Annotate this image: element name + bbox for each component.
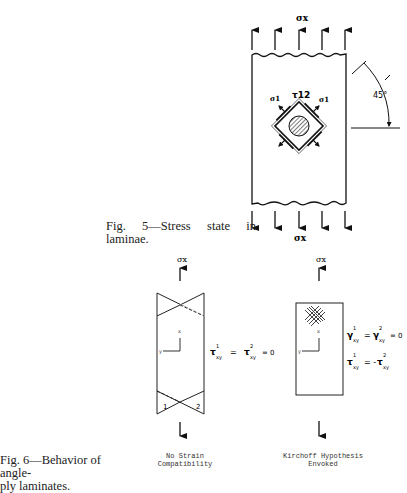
fig6-caption-line2: ply laminates.	[0, 480, 135, 493]
fig5-top-arrows	[252, 30, 345, 50]
svg-text:1: 1	[216, 343, 219, 349]
svg-text:xy: xy	[216, 354, 222, 361]
svg-text:xy: xy	[379, 337, 385, 344]
fig6-right-panel: σx x y γ 1 xy = γ 2 xy = 0	[296, 255, 403, 436]
fig6-left-axes	[163, 338, 180, 351]
svg-text:xy: xy	[353, 337, 359, 344]
fig5-sigma-bottom-label: σx	[294, 233, 307, 243]
fig6-left-label: No Strain Compatibility	[150, 452, 220, 468]
fig5-sigma-top-label: σx	[296, 13, 309, 23]
fig6-right-label-line1: Kirchoff Hypothesis	[278, 452, 368, 460]
fig6-left-label-line2: Compatibility	[150, 460, 220, 468]
fig5-bottom-arrows	[252, 211, 345, 228]
svg-text:x: x	[317, 328, 320, 334]
fig5-angle-label: 45°	[373, 91, 387, 100]
fig5-sigma1-right-label: σ1	[319, 95, 329, 104]
fig6-right-axes	[302, 338, 319, 351]
svg-text:xy: xy	[383, 364, 389, 371]
fig6-left-panel: σx x y 1 2 τ 1 xy = τ 2	[157, 255, 275, 436]
svg-text:xy: xy	[250, 354, 256, 361]
fig6-right-equation-tau: τ 1 xy = - τ 2 xy	[347, 352, 389, 371]
svg-text:2: 2	[250, 343, 253, 349]
fig5-tau12-label: τ12	[292, 90, 310, 100]
svg-text:= 0: = 0	[390, 332, 403, 340]
figure5-diagram: σx σ1 σ1 τ1	[252, 13, 400, 243]
fig6-left-label-line1: No Strain	[150, 452, 220, 460]
svg-text:y: y	[159, 348, 162, 355]
fig6-left-equation: τ 1 xy = τ 2 xy = 0	[210, 343, 275, 361]
fig6-caption-line1: Fig. 6—Behavior of angle-	[0, 454, 135, 480]
fig6-right-label-line2: Envoked	[278, 460, 368, 468]
fig5-sigma1-left-label: σ1	[270, 94, 280, 103]
svg-text:y: y	[298, 348, 301, 355]
fig6-caption: Fig. 6—Behavior of angle- ply laminates.	[0, 454, 135, 493]
fig6-right-label: Kirchoff Hypothesis Envoked	[278, 452, 368, 468]
fig5-caption-line2: laminae.	[106, 233, 256, 246]
svg-text:xy: xy	[353, 364, 359, 371]
fig5-fiber-hatched	[289, 116, 309, 136]
fig6-left-ply-label-2: 2	[196, 403, 200, 411]
svg-text:2: 2	[383, 352, 386, 358]
fig5-caption: Fig. 5—Stress state in laminae.	[106, 220, 256, 246]
svg-text:1: 1	[353, 325, 356, 331]
svg-text:2: 2	[379, 325, 382, 331]
svg-text:=: =	[364, 331, 371, 340]
fig6-left-ply-label-1: 1	[163, 403, 167, 411]
svg-text:= -: = -	[364, 358, 376, 367]
fig6-right-equation-gamma: γ 1 xy = γ 2 xy = 0	[347, 325, 403, 344]
svg-text:1: 1	[353, 352, 356, 358]
svg-text:= 0: = 0	[262, 349, 275, 357]
svg-text:=: =	[230, 348, 237, 357]
fig6-left-sigma-label: σx	[177, 255, 187, 264]
svg-text:x: x	[178, 328, 181, 334]
fig6-right-sigma-label: σx	[316, 255, 326, 264]
fig6-right-crossed-fibers-icon	[305, 306, 325, 326]
